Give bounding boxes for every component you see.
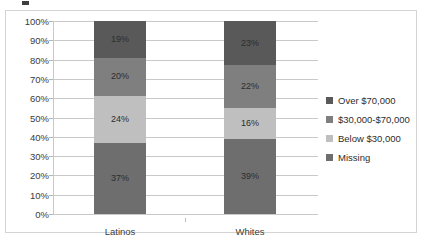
x-axis-category-label: Whites: [205, 226, 295, 237]
bar-value-label: 22%: [241, 82, 259, 91]
y-axis-tick-label: 100%: [11, 16, 49, 27]
y-axis-labels: 100%90%80%70%60%50%40%30%20%10%0%: [11, 21, 49, 214]
chart-figure: 100%90%80%70%60%50%40%30%20%10%0% 37%24%…: [0, 0, 423, 238]
bar-value-label: 24%: [111, 115, 129, 124]
bar-segment[interactable]: 24%: [94, 96, 146, 142]
legend-swatch-icon: [326, 97, 333, 104]
cropped-title-artifact: [22, 1, 29, 5]
y-axis-tick-label: 20%: [11, 170, 49, 181]
legend-swatch-icon: [326, 154, 333, 161]
bar-value-label: 16%: [241, 119, 259, 128]
y-axis-tick-label: 0%: [11, 209, 49, 220]
x-axis-category-label: Latinos: [75, 226, 165, 237]
y-axis-tick-label: 80%: [11, 54, 49, 65]
y-axis-tick-label: 50%: [11, 112, 49, 123]
y-axis-tick-label: 60%: [11, 93, 49, 104]
y-axis-tick-label: 30%: [11, 151, 49, 162]
bar-segment[interactable]: 16%: [224, 108, 276, 139]
bar-segment[interactable]: 23%: [224, 21, 276, 65]
legend-item-label: Below $30,000: [338, 133, 401, 144]
legend-item-label: Missing: [338, 152, 370, 163]
legend-item[interactable]: Over $70,000: [326, 91, 423, 110]
legend-swatch-icon: [326, 135, 333, 142]
bar-stack[interactable]: 37%24%20%19%: [94, 21, 146, 214]
x-axis-divider-tick: [185, 218, 186, 222]
legend-swatch-icon: [326, 116, 333, 123]
legend-item[interactable]: Below $30,000: [326, 129, 423, 148]
legend-item[interactable]: Missing: [326, 148, 423, 167]
chart-legend: Over $70,000$30,000-$70,000Below $30,000…: [326, 91, 423, 167]
bar-stack[interactable]: 39%16%22%23%: [224, 21, 276, 214]
bar-value-label: 37%: [111, 174, 129, 183]
y-axis-tick-label: 70%: [11, 73, 49, 84]
y-axis-tick-label: 90%: [11, 35, 49, 46]
bar-value-label: 20%: [111, 72, 129, 81]
legend-item[interactable]: $30,000-$70,000: [326, 110, 423, 129]
bar-segment[interactable]: 20%: [94, 58, 146, 97]
legend-item-label: $30,000-$70,000: [338, 114, 410, 125]
bar-value-label: 39%: [241, 172, 259, 181]
bar-segment[interactable]: 22%: [224, 65, 276, 107]
bar-segment[interactable]: 37%: [94, 143, 146, 214]
bar-segment[interactable]: 39%: [224, 139, 276, 214]
bar-value-label: 19%: [111, 35, 129, 44]
bar-value-label: 23%: [241, 39, 259, 48]
plot-area: 37%24%20%19%39%16%22%23%: [53, 21, 318, 214]
x-axis-labels: LatinosWhites: [53, 218, 318, 238]
y-axis-tick-mark: [49, 214, 53, 215]
y-axis-tick-label: 10%: [11, 189, 49, 200]
bar-segment[interactable]: 19%: [94, 21, 146, 58]
y-axis-tick-label: 40%: [11, 131, 49, 142]
legend-item-label: Over $70,000: [338, 95, 396, 106]
bar-series-container: 37%24%20%19%39%16%22%23%: [53, 21, 318, 214]
chart-plot-frame: 100%90%80%70%60%50%40%30%20%10%0% 37%24%…: [5, 10, 417, 233]
gridline: [53, 214, 318, 215]
